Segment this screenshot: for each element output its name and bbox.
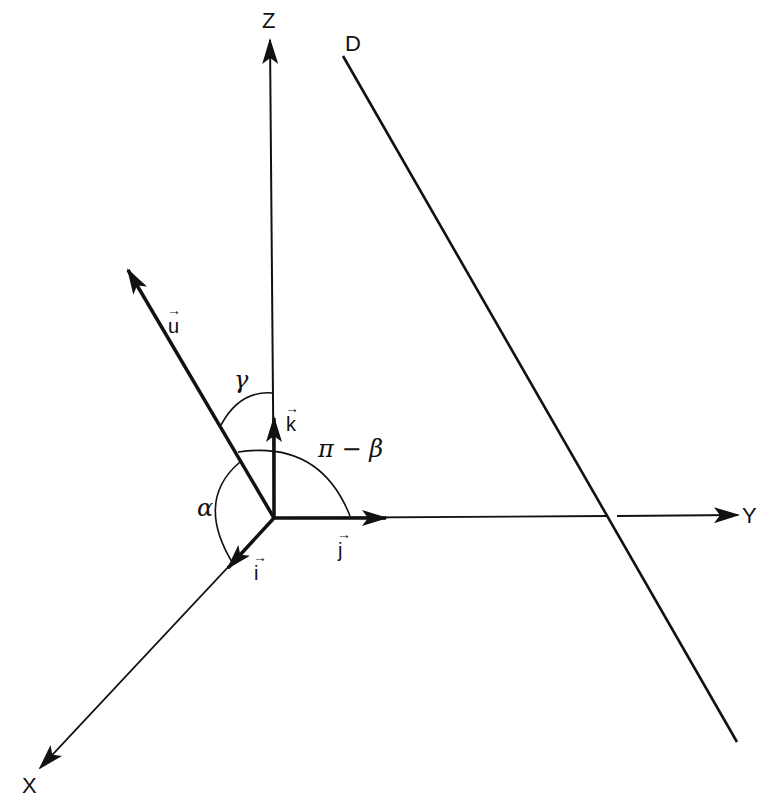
diagram-canvas (0, 0, 772, 804)
angle-alpha-label: α (197, 496, 213, 520)
angle-pi-minus-beta-label: π − β (318, 437, 383, 461)
y-axis-label: Y (742, 505, 757, 527)
vector-arrow-icon: → (337, 527, 351, 541)
angle-gamma-arc (221, 393, 273, 425)
vector-k-label: → k (286, 414, 296, 434)
vector-arrow-icon: → (285, 401, 299, 415)
vector-i-label: → i (254, 563, 258, 583)
vector-j-label: → j (338, 540, 342, 560)
x-axis-label: X (22, 775, 37, 797)
z-axis-label: Z (262, 10, 275, 32)
line-d-label: D (345, 33, 361, 55)
vector-u (128, 270, 274, 518)
angle-gamma-label: γ (234, 368, 248, 392)
line-d (343, 56, 737, 742)
vector-arrow-icon: → (167, 303, 181, 317)
vector-i (228, 518, 274, 568)
vector-arrow-icon: → (253, 550, 267, 564)
vector-u-label: → u (168, 316, 179, 336)
y-axis-extension (617, 515, 738, 516)
angle-alpha-arc (215, 462, 240, 562)
